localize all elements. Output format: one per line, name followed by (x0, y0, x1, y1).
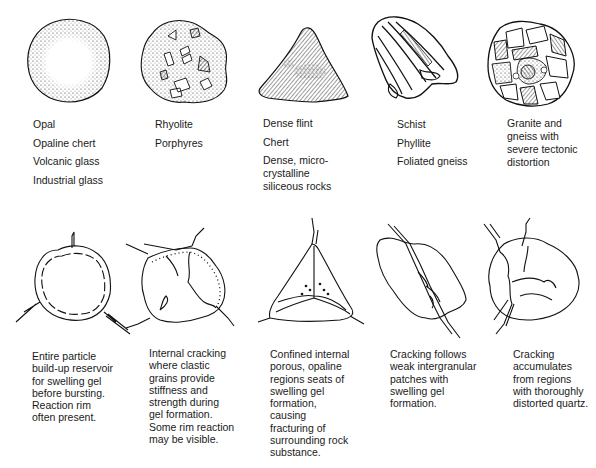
granite-label-group: Granite and gneiss with severe tectonic … (507, 117, 578, 169)
label: Opal (33, 118, 103, 137)
label: gneiss with (507, 130, 578, 143)
confined-caption: Confined internal porous, opaline region… (270, 348, 349, 459)
caption-line: formation. (390, 397, 476, 409)
label: Volcanic glass (33, 155, 103, 174)
caption-line: patches with (390, 373, 476, 385)
rhyolite-label-group: Rhyolite Porphyres (155, 118, 203, 155)
caption-line: stiffness and (149, 384, 234, 396)
label: Industrial glass (33, 174, 103, 193)
distorted-caption: Cracking accumulates from regions with t… (513, 348, 588, 409)
opal-glass-particle-icon (28, 19, 110, 102)
caption-line: Reaction rim (32, 399, 113, 411)
internal-caption: Internal cracking where clastic grains p… (149, 347, 234, 445)
caption-line: regions seats of (270, 373, 349, 385)
caption-line: where clastic (149, 359, 234, 371)
label: Schist (397, 118, 468, 137)
caption-line: before bursting. (32, 387, 113, 399)
label: Dense, micro- (263, 154, 331, 167)
schist-foliated-particle-icon (372, 17, 458, 98)
internally-cracked-particle-icon (126, 228, 234, 328)
flint-chert-particle-icon (259, 28, 348, 102)
burst-caption: Entire particle build-up reservoir for s… (32, 350, 113, 424)
triangular-cracked-particle-icon (258, 218, 364, 324)
label: distortion (507, 156, 578, 169)
caption-line: strength during (149, 396, 234, 408)
granite-gneiss-particle-icon (488, 21, 574, 106)
caption-line: often present. (32, 411, 113, 423)
caption-line: substance. (270, 446, 349, 458)
label: Foliated gneiss (397, 155, 468, 174)
label: Chert (263, 136, 331, 155)
cracked-round-particle-icon (16, 232, 130, 334)
caption-line: distorted quartz. (513, 397, 588, 409)
caption-line: swelling gel (270, 385, 349, 397)
caption-line: weak intergranular (390, 360, 476, 372)
label: Granite and (507, 117, 578, 130)
caption-line: Some rim reaction (149, 421, 234, 433)
caption-line: causing (270, 409, 349, 421)
label: Phyllite (397, 137, 468, 156)
caption-line: grains provide (149, 372, 234, 384)
caption-line: Confined internal (270, 348, 349, 360)
caption-line: surrounding rock (270, 434, 349, 446)
caption-line: swelling gel (390, 385, 476, 397)
caption-line: from regions (513, 373, 588, 385)
caption-line: formation, (270, 397, 349, 409)
distorted-quartz-crack-particle-icon (484, 218, 579, 334)
caption-line: gel formation. (149, 408, 234, 420)
rhyolite-porphyry-particle-icon (141, 21, 226, 103)
caption-line: Entire particle (32, 350, 113, 362)
label: Porphyres (155, 137, 203, 156)
label: crystalline (263, 167, 331, 180)
caption-line: porous, opaline (270, 360, 349, 372)
caption-line: may be visible. (149, 433, 234, 445)
intergranular-crack-particle-icon (377, 224, 466, 338)
label: Rhyolite (155, 118, 203, 137)
schist-label-group: Schist Phyllite Foliated gneiss (397, 118, 468, 174)
caption-line: Cracking follows (390, 348, 476, 360)
caption-line: build-up reservoir (32, 362, 113, 374)
caption-line: fracturing of (270, 422, 349, 434)
flint-label-group: Dense flint Chert Dense, micro- crystall… (263, 117, 331, 193)
caption-line: accumulates (513, 360, 588, 372)
caption-line: for swelling gel (32, 375, 113, 387)
intergranular-caption: Cracking follows weak intergranular patc… (390, 348, 476, 409)
label: siliceous rocks (263, 180, 331, 193)
opal-label-group: Opal Opaline chert Volcanic glass Indust… (33, 118, 103, 192)
caption-line: Internal cracking (149, 347, 234, 359)
label: Dense flint (263, 117, 331, 136)
label: Opaline chert (33, 137, 103, 156)
caption-line: with thoroughly (513, 385, 588, 397)
label: severe tectonic (507, 143, 578, 156)
caption-line: Cracking (513, 348, 588, 360)
